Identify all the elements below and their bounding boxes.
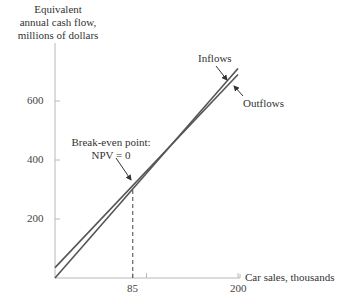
y-tick-label-400: 400 [27,153,44,165]
outflows-arrow [234,86,243,96]
break-even-label-line-1: Break-even point: [65,136,157,149]
inflows-arrow [216,66,227,80]
y-ticks [55,101,60,219]
break-even-label-line-2: NPV = 0 [65,149,157,162]
break-even-label: Break-even point: NPV = 0 [65,136,157,162]
chart-plot [0,0,352,305]
y-tick-label-600: 600 [27,94,44,106]
outflows-label: Outflows [243,97,284,110]
annotation-arrows [116,66,243,180]
x-tick-label-85: 85 [127,282,138,294]
inflows-line [55,69,238,278]
outflows-line [55,74,238,267]
y-tick-label-200: 200 [27,212,44,224]
x-axis-label: Car sales, thousands [245,271,335,284]
x-ticks [133,273,238,278]
inflows-label: Inflows [198,52,232,65]
series-lines [55,69,238,278]
